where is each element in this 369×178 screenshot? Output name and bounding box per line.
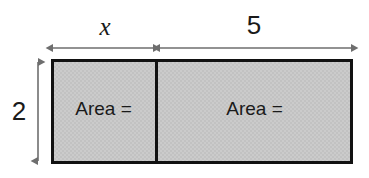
right-region-area-label: Area =: [157, 99, 352, 118]
area-model-diagram: x 5 2 Area = Area =: [0, 0, 369, 178]
dimension-label-2: 2: [6, 98, 32, 124]
diagram-canvas: [0, 0, 369, 178]
left-region-area-label: Area =: [52, 99, 155, 118]
dimension-label-5: 5: [233, 12, 275, 38]
dimension-label-x: x: [84, 14, 126, 39]
